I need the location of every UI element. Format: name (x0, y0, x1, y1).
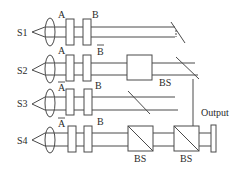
source-label-s1: S1 (17, 27, 28, 38)
bs-label-lower-left: BS (134, 153, 146, 164)
source-label-s3: S3 (17, 98, 28, 109)
bs-label-lower-right: BS (180, 153, 192, 164)
element-label-a-s1: A (58, 9, 66, 20)
element-label-b-s1: B (92, 9, 99, 20)
element-b-s1 (83, 19, 91, 45)
element-label-abar-s3: A (58, 82, 66, 93)
element-a-s4 (68, 126, 76, 152)
row-s4 (32, 125, 216, 153)
element-b-s4 (84, 126, 92, 152)
beamsplitter-upper (176, 57, 199, 79)
element-label-b-s3: B (95, 80, 102, 91)
row-s3 (32, 89, 178, 117)
output-detector (211, 125, 216, 152)
lens-s2 (45, 55, 55, 83)
row-s1 (32, 18, 185, 46)
bs-label-upper: BS (159, 77, 171, 88)
element-label-a-s2: A (58, 45, 66, 56)
mirror-s3 (128, 91, 150, 114)
element-b-s2 (83, 55, 91, 81)
element-label-abar-s4: A (58, 118, 66, 129)
box-s2 (127, 55, 152, 80)
source-label-s4: S4 (17, 135, 28, 146)
lens-s3 (45, 89, 55, 117)
element-label-bbar-s2: B (97, 46, 104, 57)
optical-setup-diagram: S1 A B S2 A B S3 A B S4 A B BS BS BS Out… (0, 0, 246, 172)
element-a-s1 (66, 19, 74, 45)
source-label-s2: S2 (17, 65, 28, 76)
output-label: Output (201, 107, 229, 118)
element-label-b-s4: B (97, 116, 104, 127)
element-a-s2 (66, 55, 74, 81)
lens-s4 (45, 127, 55, 153)
mirror-s1 (171, 22, 185, 43)
element-a-s3 (66, 89, 74, 115)
element-b-s3 (84, 89, 92, 115)
lens-s1 (45, 18, 55, 46)
